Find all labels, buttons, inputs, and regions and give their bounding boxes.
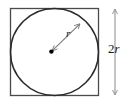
diameter-variable: r <box>115 41 120 56</box>
geometry-figure: r 2r <box>0 0 131 102</box>
center-dot <box>49 49 53 53</box>
diameter-label: 2r <box>108 42 120 55</box>
inscribed-circle <box>11 9 99 96</box>
radius-label: r <box>66 28 70 39</box>
